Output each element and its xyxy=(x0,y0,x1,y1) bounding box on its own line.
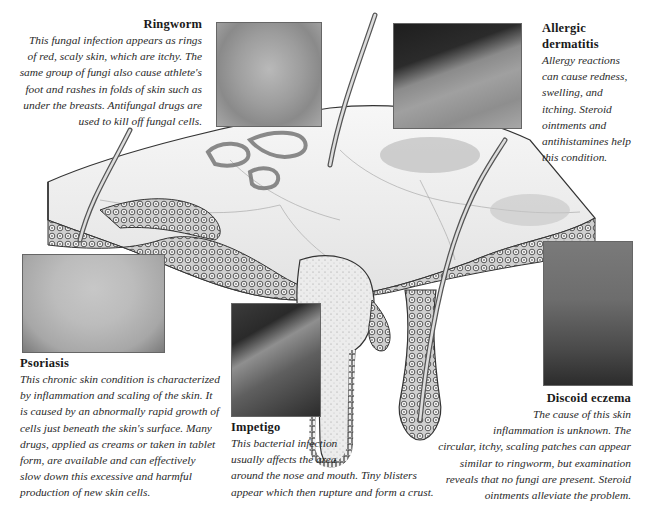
allergic-dermatitis-text: Allergy reactions can cause redness, swe… xyxy=(542,52,646,165)
ringworm-title: Ringworm xyxy=(12,16,202,32)
eczema-lesion xyxy=(490,194,570,226)
discoid-eczema-photo xyxy=(543,241,633,386)
ringworm-caption: Ringworm This fungal infection appears a… xyxy=(12,16,202,129)
psoriasis-text: This chronic skin condition is character… xyxy=(20,371,230,501)
impetigo-photo xyxy=(231,303,321,417)
psoriasis-caption: Psoriasis This chronic skin condition is… xyxy=(20,355,230,501)
allergic-dermatitis-photo xyxy=(393,23,522,129)
ringworm-photo xyxy=(216,22,322,127)
psoriasis-title: Psoriasis xyxy=(20,355,230,371)
impetigo-text: This bacterial infection usually affects… xyxy=(231,435,441,500)
discoid-eczema-caption: Discoid eczema The cause of this skin in… xyxy=(430,390,631,503)
ringworm-text: This fungal infection appears as rings o… xyxy=(12,32,202,129)
impetigo-caption: Impetigo This bacterial infection usuall… xyxy=(231,419,441,500)
allergic-dermatitis-title: Allergicdermatitis xyxy=(542,20,646,52)
allergic-dermatitis-lesion xyxy=(380,137,480,173)
impetigo-title: Impetigo xyxy=(231,419,441,435)
discoid-eczema-title: Discoid eczema xyxy=(430,390,631,406)
discoid-eczema-text: The cause of this skin inflammation is u… xyxy=(430,406,631,503)
psoriasis-photo xyxy=(22,254,165,353)
allergic-dermatitis-caption: Allergicdermatitis Allergy reactions can… xyxy=(542,20,646,165)
